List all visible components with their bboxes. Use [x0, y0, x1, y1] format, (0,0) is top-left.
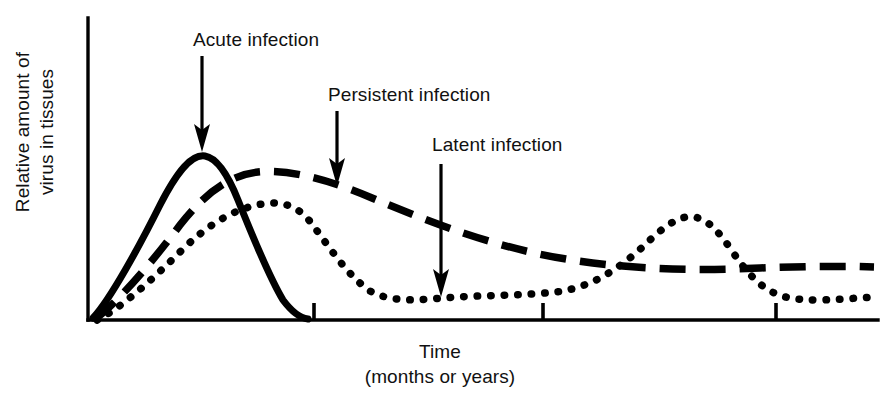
y-axis-label: Relative amount of virus in tissues: [11, 22, 71, 242]
curve-persistent-infection: [95, 172, 874, 319]
arrow-acute-infection: [194, 56, 210, 152]
figure-container: Acute infection Persistent infection Lat…: [0, 0, 880, 415]
x-axis-label-line2: (months or years): [0, 365, 880, 388]
y-axis-label-line1: Relative amount of: [11, 22, 35, 242]
x-axis-label-line1: Time: [0, 340, 880, 363]
y-axis-label-line2: virus in tissues: [35, 22, 59, 242]
x-axis-label: Time (months or years): [0, 340, 880, 388]
annotation-label-acute-infection: Acute infection: [193, 28, 319, 51]
annotation-label-persistent-infection: Persistent infection: [328, 83, 491, 106]
annotation-label-latent-infection: Latent infection: [432, 133, 562, 156]
curve-latent-infection: [97, 203, 874, 320]
arrow-persistent-infection: [329, 111, 345, 186]
